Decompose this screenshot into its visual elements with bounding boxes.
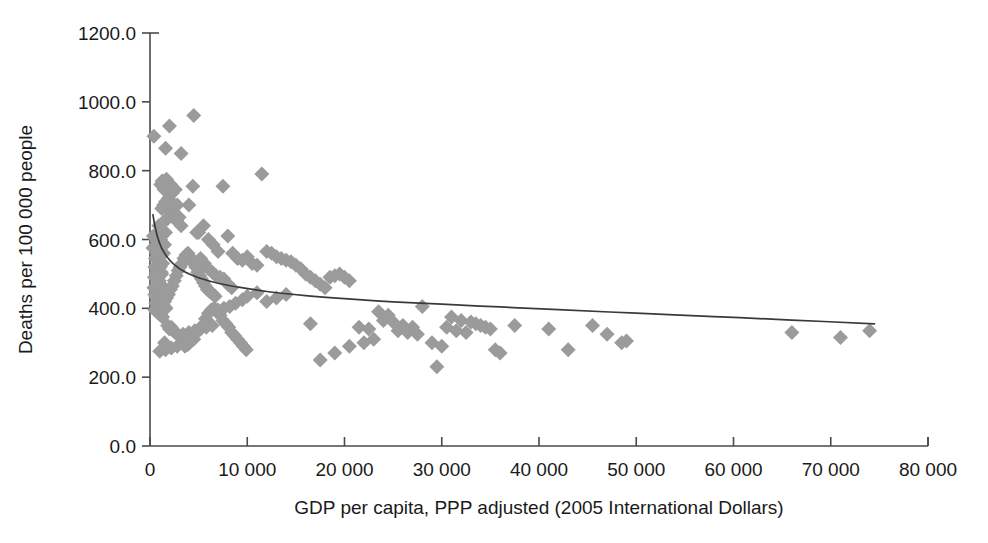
data-point-marker [215,179,230,194]
data-point-marker [185,179,200,194]
x-tick-label: 70 000 [802,459,860,480]
data-point-marker [600,327,615,342]
data-point-marker [833,330,848,345]
data-point-marker [541,321,556,336]
x-axis-title: GDP per capita, PPP adjusted (2005 Inter… [294,497,783,518]
data-point-marker [585,318,600,333]
data-point-marker [313,352,328,367]
data-point-marker [220,229,235,244]
chart-container: 0.0200.0400.0600.0800.01000.01200.0010 0… [0,0,988,543]
scatter-plot: 0.0200.0400.0600.0800.01000.01200.0010 0… [0,0,988,543]
data-point-marker [862,323,877,338]
x-tick-label: 30 000 [413,459,471,480]
data-point-marker [158,141,173,156]
x-tick-label: 60 000 [704,459,762,480]
y-tick-label: 800.0 [88,161,136,182]
y-tick-label: 200.0 [88,367,136,388]
x-tick-label: 20 000 [315,459,373,480]
data-point-marker [784,325,799,340]
data-point-marker [507,318,522,333]
data-point-marker [303,316,318,331]
data-point-marker [415,299,430,314]
x-tick-label: 40 000 [510,459,568,480]
x-tick-label: 10 000 [218,459,276,480]
axes-layer [142,33,928,446]
y-axis-title: Deaths per 100 000 people [15,125,36,354]
data-point-marker [186,108,201,123]
data-point-marker [162,118,177,133]
trend-line-layer [153,215,875,324]
y-tick-label: 1000.0 [78,92,136,113]
data-point-marker [254,167,269,182]
y-tick-label: 400.0 [88,298,136,319]
data-points-layer [145,108,877,374]
data-point-marker [146,129,161,144]
x-tick-label: 50 000 [607,459,665,480]
data-point-marker [174,146,189,161]
data-point-marker [561,342,576,357]
data-point-marker [181,198,196,213]
y-tick-label: 0.0 [110,436,136,457]
data-point-marker [342,339,357,354]
data-point-marker [429,359,444,374]
trend-line [153,215,875,324]
x-tick-label: 80 000 [899,459,957,480]
y-tick-label: 1200.0 [78,23,136,44]
x-tick-label: 0 [145,459,156,480]
y-tick-label: 600.0 [88,230,136,251]
data-point-marker [327,346,342,361]
